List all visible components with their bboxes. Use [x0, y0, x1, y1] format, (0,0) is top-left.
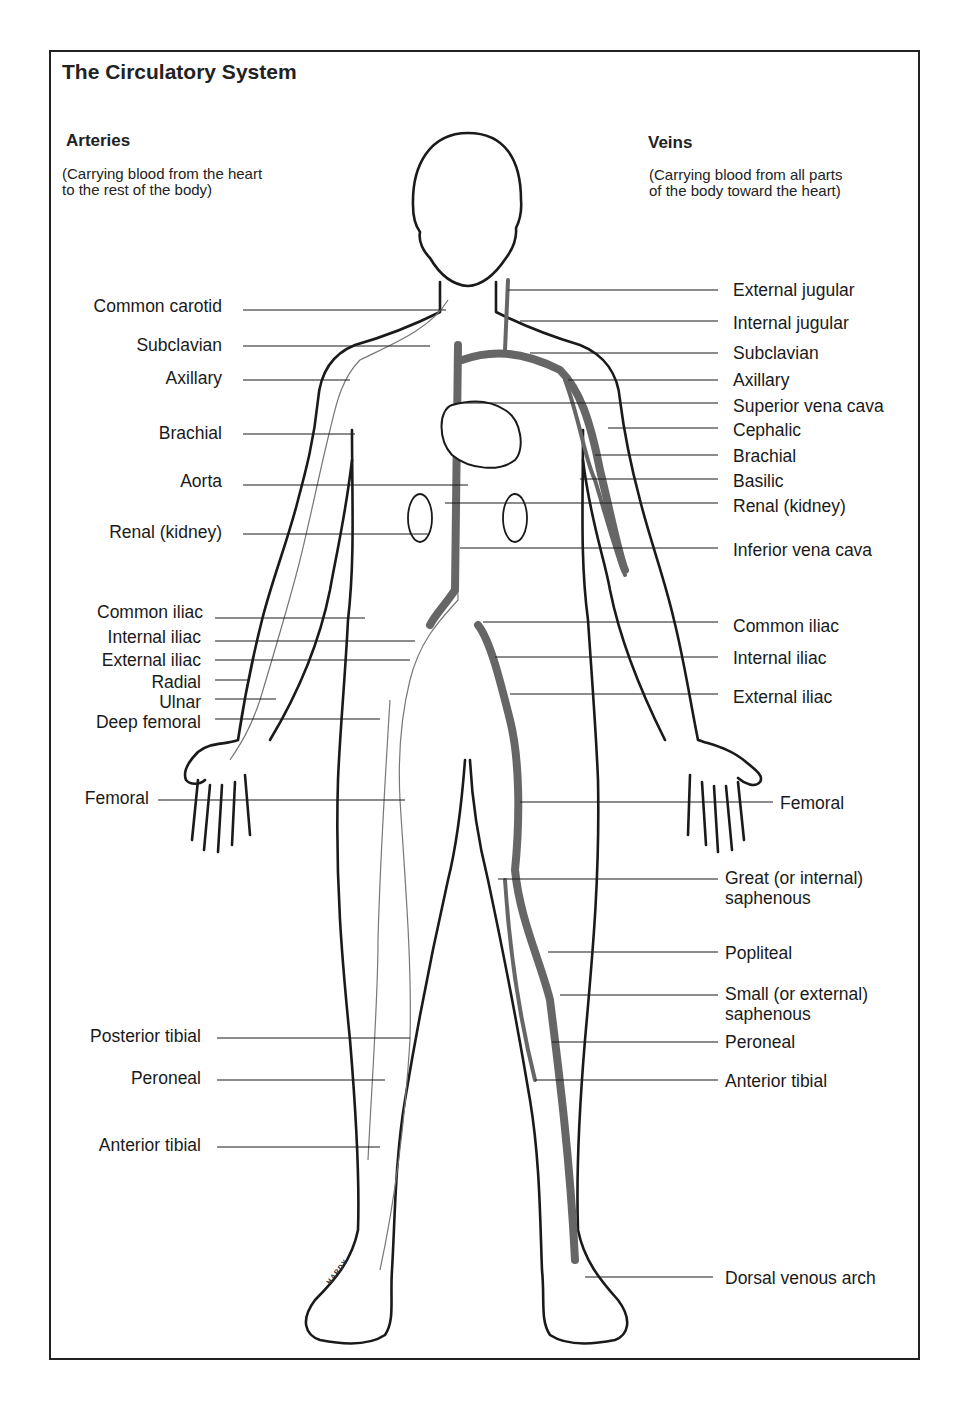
label-vein-axillary: Axillary: [733, 370, 789, 390]
label-artery-ulnar: Ulnar: [159, 692, 201, 712]
label-artery-anterior-tibial: Anterior tibial: [99, 1135, 201, 1155]
left-kidney: [408, 494, 432, 542]
label-vein-renal: Renal (kidney): [733, 496, 846, 516]
label-vein-femoral: Femoral: [780, 793, 844, 813]
label-artery-radial: Radial: [151, 672, 201, 692]
right-kidney: [503, 494, 527, 542]
label-artery-subclavian: Subclavian: [136, 335, 222, 355]
label-vein-common-iliac: Common iliac: [733, 616, 839, 636]
label-vein-internal-iliac: Internal iliac: [733, 648, 826, 668]
label-artery-renal: Renal (kidney): [109, 522, 222, 542]
label-artery-common-iliac: Common iliac: [97, 602, 203, 622]
label-vein-small-saphenous: Small (or external) saphenous: [725, 984, 868, 1024]
label-vein-inferior-vena-cava: Inferior vena cava: [733, 540, 872, 560]
label-vein-brachial: Brachial: [733, 446, 796, 466]
label-vein-anterior-tibial: Anterior tibial: [725, 1071, 827, 1091]
label-vein-basilic: Basilic: [733, 471, 784, 491]
label-artery-common-carotid: Common carotid: [94, 296, 222, 316]
label-vein-peroneal: Peroneal: [725, 1032, 795, 1052]
label-vein-external-iliac: External iliac: [733, 687, 832, 707]
label-artery-brachial: Brachial: [159, 423, 222, 443]
label-vein-subclavian: Subclavian: [733, 343, 819, 363]
label-vein-internal-jugular: Internal jugular: [733, 313, 849, 333]
label-artery-peroneal: Peroneal: [131, 1068, 201, 1088]
label-artery-deep-femoral: Deep femoral: [96, 712, 201, 732]
label-artery-internal-iliac: Internal iliac: [108, 627, 201, 647]
label-vein-great-saphenous: Great (or internal) saphenous: [725, 868, 863, 908]
label-artery-posterior-tibial: Posterior tibial: [90, 1026, 201, 1046]
label-vein-external-jugular: External jugular: [733, 280, 855, 300]
label-artery-axillary: Axillary: [166, 368, 222, 388]
label-artery-femoral: Femoral: [85, 788, 149, 808]
label-artery-external-iliac: External iliac: [102, 650, 201, 670]
label-vein-cephalic: Cephalic: [733, 420, 801, 440]
body-outline: [185, 133, 761, 1343]
label-artery-aorta: Aorta: [180, 471, 222, 491]
label-vein-popliteal: Popliteal: [725, 943, 792, 963]
arteries-lines: [230, 300, 458, 1270]
label-vein-superior-vena-cava: Superior vena cava: [733, 396, 884, 416]
label-vein-dorsal-venous-arch: Dorsal venous arch: [725, 1268, 876, 1288]
